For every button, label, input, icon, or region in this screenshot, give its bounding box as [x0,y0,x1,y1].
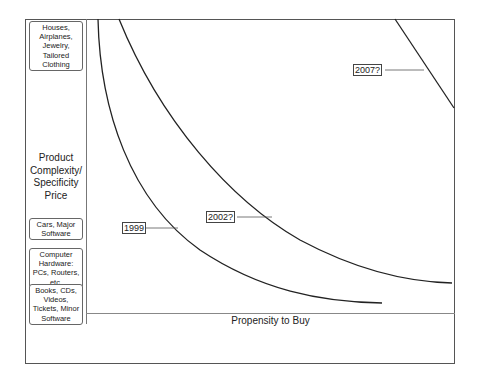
curve-1999 [98,19,382,303]
curve-label-2007: 2007? [353,64,382,76]
curve-2007 [395,19,454,108]
curves-plot [0,0,479,384]
curve-label-1999: 1999 [122,222,146,234]
curve-2002 [119,19,452,283]
curve-label-2002: 2002? [206,211,235,223]
